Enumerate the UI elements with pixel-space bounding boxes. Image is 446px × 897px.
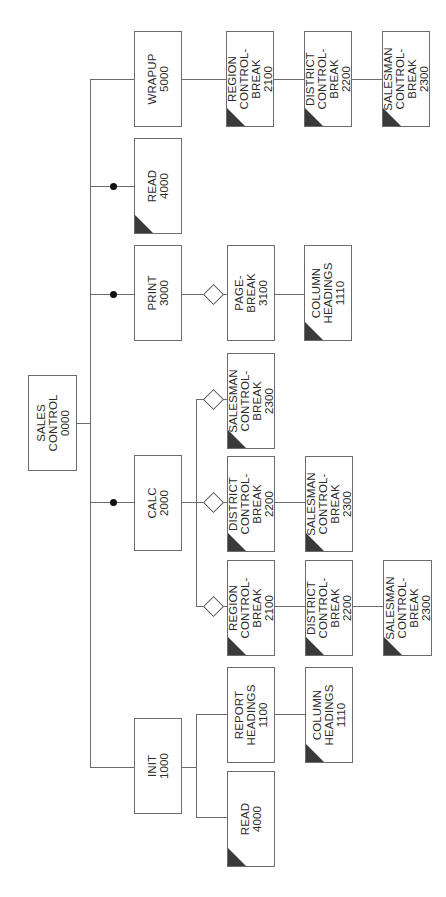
loop-dot-print — [110, 291, 117, 298]
module-label: SALESMAN CONTROL- BREAK 2300 — [305, 472, 353, 535]
module-init-read: READ 4000 — [227, 771, 275, 867]
loop-dot-read — [110, 183, 117, 190]
main-spine — [90, 79, 91, 768]
module-label: SALES CONTROL 0000 — [35, 395, 71, 452]
library-module-shade-icon — [228, 533, 246, 551]
calc-branch-spine — [196, 399, 197, 607]
module-calc-region-salesman-control-break: SALESMAN CONTROL- BREAK 2300 — [383, 560, 432, 656]
connector-wrapup-region — [181, 79, 226, 80]
module-calc-region-control-break: REGION CONTROL- BREAK 2100 — [227, 560, 275, 656]
module-label: INIT 1000 — [146, 753, 170, 779]
module-print: PRINT 3000 — [134, 245, 182, 341]
module-label: WRAPUP 5000 — [146, 53, 170, 104]
module-init: INIT 1000 — [134, 718, 182, 814]
condition-diamond-salesman — [203, 389, 224, 410]
connector-init-branch — [182, 767, 197, 768]
module-label: SALESMAN CONTROL- BREAK 2300 — [384, 576, 432, 639]
connector-region-district — [274, 79, 304, 80]
module-label: REGION CONTROL- BREAK 2100 — [226, 49, 274, 110]
condition-diamond-region — [203, 596, 224, 617]
module-label: DISTRICT CONTROL- BREAK 2200 — [304, 49, 352, 110]
library-module-shade-icon — [306, 744, 324, 762]
module-wrapup-region-control-break: REGION CONTROL- BREAK 2100 — [226, 31, 274, 127]
connector-init-reporthead — [196, 714, 227, 715]
module-label: DISTRICT CONTROL- BREAK 2200 — [305, 578, 353, 639]
condition-diamond-district — [203, 492, 224, 513]
module-label: READ 4000 — [239, 803, 263, 835]
module-init-column-headings: COLUMN HEADINGS 1110 — [305, 667, 353, 763]
library-module-shade-icon — [384, 637, 402, 655]
library-module-shade-icon — [228, 848, 246, 866]
module-calc-district-control-break: DISTRICT CONTROL- BREAK 2200 — [227, 456, 275, 552]
module-read: READ 4000 — [134, 138, 182, 234]
library-module-shade-icon — [306, 637, 324, 655]
connector-init — [90, 767, 134, 768]
module-calc: CALC 2000 — [134, 455, 182, 551]
library-module-shade-icon — [305, 108, 323, 126]
connector-reporthead-colhead — [275, 714, 305, 715]
module-report-headings: REPORT HEADINGS 1100 — [227, 667, 275, 763]
module-label: PAGE- BREAK 3100 — [233, 273, 269, 313]
connector-district-salesman-calc2 — [353, 606, 383, 607]
module-label: CALC 2000 — [146, 487, 170, 518]
structure-chart: SALES CONTROL 0000 WRAPUP 5000 READ 4000… — [0, 0, 446, 897]
module-wrapup-salesman-control-break: SALESMAN CONTROL- BREAK 2300 — [382, 31, 430, 127]
module-label: COLUMN HEADINGS 1110 — [311, 685, 347, 746]
module-label: COLUMN HEADINGS 1110 — [310, 263, 346, 324]
connector-region-district-calc — [275, 606, 305, 607]
loop-dot-calc — [110, 499, 117, 506]
connector-pagebreak-colhead — [275, 294, 304, 295]
module-print-column-headings: COLUMN HEADINGS 1110 — [304, 245, 352, 341]
module-label: SALESMAN CONTROL- BREAK 2300 — [227, 369, 275, 432]
library-module-shade-icon — [228, 430, 246, 448]
library-module-shade-icon — [227, 108, 245, 126]
connector-wrapup — [90, 79, 134, 80]
module-calc-district-salesman-control-break: SALESMAN CONTROL- BREAK 2300 — [305, 456, 353, 552]
init-branch-spine — [196, 714, 197, 818]
module-sales-control: SALES CONTROL 0000 — [28, 375, 77, 471]
library-module-shade-icon — [135, 215, 153, 233]
library-module-shade-icon — [383, 108, 401, 126]
condition-diamond-pagebreak — [203, 284, 224, 305]
module-label: PRINT 3000 — [146, 276, 170, 311]
module-label: REGION CONTROL- BREAK 2100 — [227, 578, 275, 639]
module-label: READ 4000 — [146, 170, 170, 202]
connector-district-salesman — [352, 79, 382, 80]
module-wrapup: WRAPUP 5000 — [134, 31, 182, 127]
connector-district-salesman-calc — [275, 502, 305, 503]
library-module-shade-icon — [306, 533, 324, 551]
library-module-shade-icon — [305, 322, 323, 340]
connector-root-spine — [77, 423, 91, 424]
module-page-break: PAGE- BREAK 3100 — [227, 245, 275, 341]
module-label: REPORT HEADINGS 1100 — [233, 685, 269, 746]
library-module-shade-icon — [228, 637, 246, 655]
module-wrapup-district-control-break: DISTRICT CONTROL- BREAK 2200 — [304, 31, 352, 127]
module-label: DISTRICT CONTROL- BREAK 2200 — [227, 474, 275, 535]
module-label: SALESMAN CONTROL- BREAK 2300 — [382, 47, 430, 110]
module-calc-region-district-control-break: DISTRICT CONTROL- BREAK 2200 — [305, 560, 353, 656]
connector-init-read — [196, 817, 227, 818]
module-calc-salesman-control-break: SALESMAN CONTROL- BREAK 2300 — [227, 353, 275, 449]
